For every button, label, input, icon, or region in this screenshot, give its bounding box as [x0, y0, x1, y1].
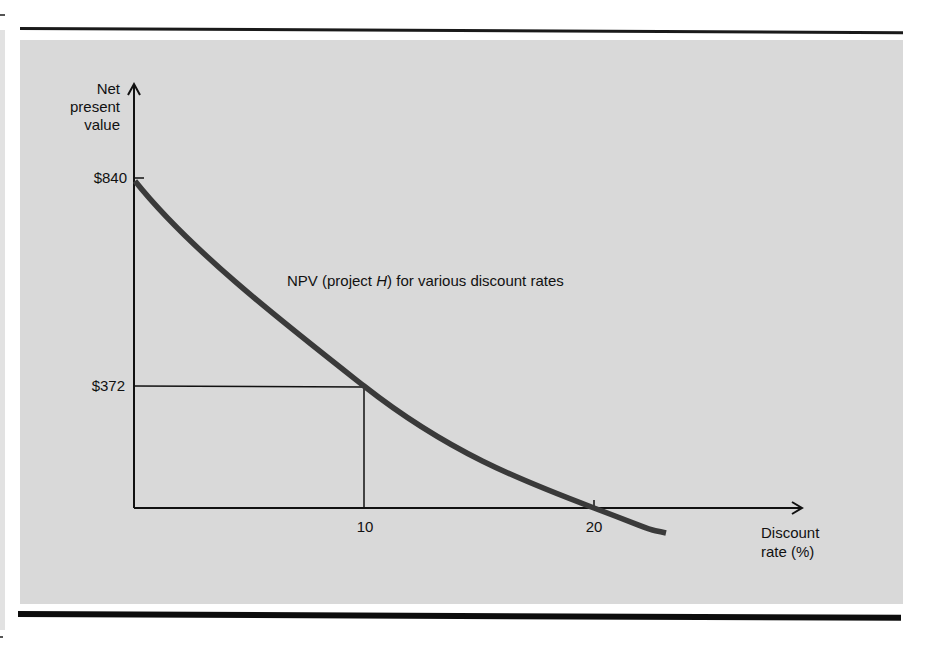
curve-annotation-prefix: NPV (project	[287, 272, 376, 289]
y-tick-label-840: $840	[94, 169, 127, 186]
y-axis-label-line3: value	[84, 116, 120, 133]
x-tick-label-20: 20	[586, 518, 603, 535]
x-axis-label-line2: rate (%)	[761, 543, 814, 560]
x-tick-label-10: 10	[357, 518, 374, 535]
reference-line-horizontal	[134, 386, 364, 387]
curve-annotation: NPV (project H) for various discount rat…	[287, 272, 564, 289]
x-axis-label-line1: Discount	[761, 524, 820, 541]
npv-chart: Net present value $840 $372 10 20 Discou…	[0, 0, 940, 650]
y-tick-label-372: $372	[92, 377, 125, 394]
y-axis-label-line1: Net	[97, 80, 121, 97]
curve-annotation-italic: H	[376, 272, 387, 289]
curve-annotation-suffix: ) for various discount rates	[387, 272, 564, 289]
y-axis-label-line2: present	[70, 98, 121, 115]
npv-curve	[135, 181, 666, 533]
